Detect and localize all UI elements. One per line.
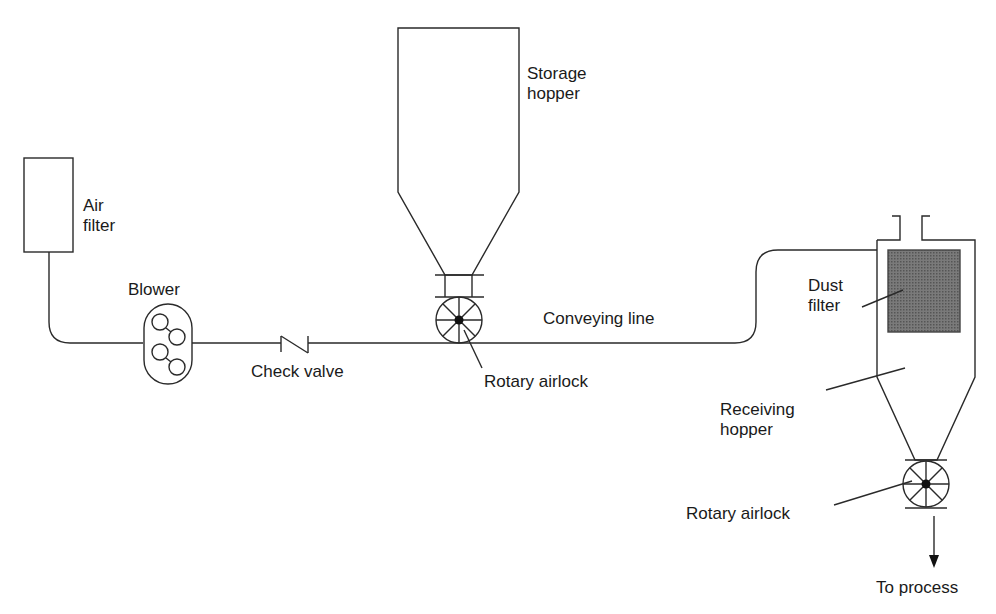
conveying-line-label: Conveying line: [543, 309, 655, 329]
check-valve-icon: [281, 336, 308, 353]
receiving-hopper-label: Receiving hopper: [720, 400, 795, 440]
rotary-airlock-discharge-icon: [903, 461, 949, 507]
storage-hopper-label: Storage hopper: [527, 64, 587, 104]
air-filter-box: [24, 158, 73, 252]
rotary-airlock-discharge-label: Rotary airlock: [686, 504, 790, 524]
air-filter-label: Air filter: [83, 196, 115, 236]
dust-filter-label: Dust filter: [808, 276, 843, 316]
rotary-airlock-feed-icon: [436, 297, 482, 343]
rotary-airlock-feed-label: Rotary airlock: [484, 372, 588, 392]
leader-rotary-airlock-discharge: [834, 481, 912, 505]
leader-rotary-airlock-feed: [464, 330, 482, 368]
blower-label: Blower: [128, 280, 180, 300]
blower-icon: [144, 304, 192, 384]
storage-hopper-icon: [398, 28, 519, 297]
check-valve-label: Check valve: [251, 362, 344, 382]
leader-receiving-hopper: [826, 368, 905, 390]
conveying-system-diagram: [0, 0, 996, 614]
down-arrow-icon: [929, 555, 939, 568]
conveying-line-pipe: [308, 250, 877, 343]
to-process-label: To process: [876, 578, 958, 598]
